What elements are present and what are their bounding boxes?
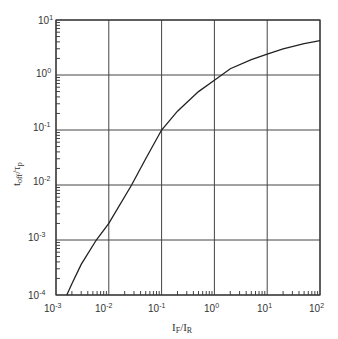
plot-frame [56, 20, 320, 295]
y-tick-label: 10-4 [28, 289, 45, 301]
y-tick-label: 10-2 [33, 175, 50, 187]
x-tick-label: 100 [204, 302, 219, 314]
chart: 10-3 10-2 10-1 100 101 102 101 100 10-1 … [0, 0, 338, 339]
y-tick-label: 10-1 [33, 121, 50, 133]
x-tick-labels: 10-3 10-2 10-1 100 101 102 [44, 302, 324, 314]
x-tick-label: 101 [257, 302, 272, 314]
y-tick-label: 101 [38, 14, 53, 26]
x-tick-label: 10-3 [44, 302, 61, 314]
y-tick-label: 10-3 [28, 231, 45, 243]
data-curve [67, 41, 320, 295]
y-tick-labels: 101 100 10-1 10-2 10-3 10-4 [28, 14, 53, 301]
y-axis-title: toff/τp [10, 162, 24, 186]
minor-ticks [56, 23, 318, 295]
x-axis-title: IF/IR [172, 321, 193, 335]
x-tick-label: 102 [309, 302, 324, 314]
grid-lines [56, 20, 320, 295]
x-tick-label: 10-2 [95, 302, 112, 314]
y-tick-label: 100 [36, 67, 51, 79]
x-tick-label: 10-1 [148, 302, 165, 314]
